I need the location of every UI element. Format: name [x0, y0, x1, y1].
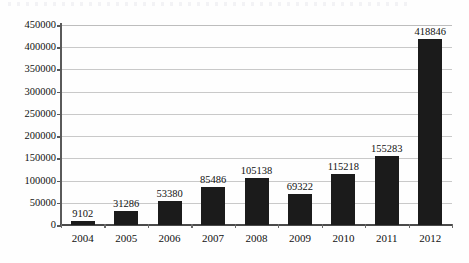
- scan-artifact: [8, 2, 408, 6]
- bar-2011: 155283: [375, 25, 399, 225]
- y-axis-tick: [57, 25, 62, 27]
- bar-value-label: 115218: [328, 161, 359, 172]
- bar-chart: 0500001000001500002000002500003000003500…: [0, 0, 469, 263]
- bar-2008: 105138: [245, 25, 269, 225]
- x-axis-label-2012: 2012: [419, 232, 441, 244]
- x-axis-label-2005: 2005: [115, 232, 137, 244]
- bar-rect: [71, 221, 95, 225]
- bar-2004: 9102: [71, 25, 95, 225]
- bar-rect: [331, 174, 355, 225]
- x-axis-tick: [148, 224, 149, 228]
- y-axis-tick-label: 50000: [30, 198, 56, 208]
- y-axis-tick-label: 150000: [25, 153, 57, 163]
- x-axis-tick: [235, 224, 236, 228]
- bar-rect: [375, 156, 399, 225]
- bar-value-label: 9102: [72, 208, 93, 219]
- bar-rect: [201, 187, 225, 225]
- bar-2005: 31286: [114, 25, 138, 225]
- y-axis-tick-label: 0: [51, 220, 56, 230]
- bar-2009: 69322: [288, 25, 312, 225]
- x-axis-label-2007: 2007: [202, 232, 224, 244]
- bar-value-label: 418846: [415, 26, 447, 37]
- bar-value-label: 31286: [113, 198, 139, 209]
- bar-value-label: 69322: [287, 181, 313, 192]
- y-axis-tick: [57, 203, 62, 205]
- y-axis-tick-label: 100000: [25, 176, 57, 186]
- y-axis-tick: [57, 158, 62, 160]
- x-axis-tick: [61, 224, 62, 228]
- x-axis-tick: [365, 224, 366, 228]
- bar-value-label: 155283: [371, 143, 403, 154]
- bar-value-label: 53380: [156, 188, 182, 199]
- y-axis-tick: [57, 69, 62, 71]
- x-axis-tick: [322, 224, 323, 228]
- x-axis-tick: [191, 224, 192, 228]
- y-axis-tick-label: 200000: [25, 131, 57, 141]
- y-axis-tick-label: 300000: [25, 87, 57, 97]
- y-axis-tick: [57, 47, 62, 49]
- bar-rect: [158, 201, 182, 225]
- x-axis-label-2004: 2004: [72, 232, 94, 244]
- x-axis-label-2008: 2008: [246, 232, 268, 244]
- x-axis-tick: [452, 224, 453, 228]
- y-axis-tick: [57, 92, 62, 94]
- bar-rect: [245, 178, 269, 225]
- y-axis-labels: 0500001000001500002000002500003000003500…: [0, 0, 56, 263]
- bar-rect: [288, 194, 312, 225]
- y-axis-tick-label: 350000: [25, 64, 57, 74]
- bar-2007: 85486: [201, 25, 225, 225]
- bar-2012: 418846: [418, 25, 442, 225]
- x-axis-label-2006: 2006: [159, 232, 181, 244]
- x-axis-tick: [409, 224, 410, 228]
- plot-area: 9102312865338085486105138693221152181552…: [61, 25, 452, 225]
- y-axis-tick: [57, 136, 62, 138]
- y-axis-tick: [57, 114, 62, 116]
- x-axis-tick: [104, 224, 105, 228]
- x-axis-label-2011: 2011: [376, 232, 398, 244]
- x-axis-label-2010: 2010: [332, 232, 354, 244]
- x-axis-tick: [278, 224, 279, 228]
- y-axis-tick: [57, 181, 62, 183]
- bar-2010: 115218: [331, 25, 355, 225]
- bar-2006: 53380: [158, 25, 182, 225]
- y-axis-tick-label: 250000: [25, 109, 57, 119]
- y-axis-tick-label: 450000: [25, 20, 57, 30]
- bar-rect: [114, 211, 138, 225]
- bar-value-label: 85486: [200, 174, 226, 185]
- y-axis-tick-label: 400000: [25, 42, 57, 52]
- bar-value-label: 105138: [241, 165, 273, 176]
- bar-rect: [418, 39, 442, 225]
- x-axis-label-2009: 2009: [289, 232, 311, 244]
